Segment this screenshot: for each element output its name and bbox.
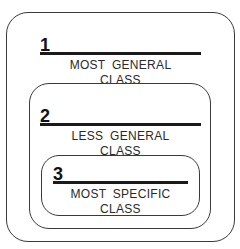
level-1-rule — [40, 52, 201, 55]
level-3-label: MOST SPECIFIC CLASS — [53, 187, 188, 216]
level-3-rule — [53, 181, 188, 184]
level-2-label: LESS GENERAL CLASS — [40, 129, 201, 158]
level-1-label-line1: MOST GENERAL — [40, 58, 201, 73]
level-2-label-line1: LESS GENERAL — [40, 129, 201, 144]
level-2-rule — [40, 123, 201, 126]
level-3-label-line2: CLASS — [53, 202, 188, 217]
level-3-label-line1: MOST SPECIFIC — [53, 187, 188, 202]
